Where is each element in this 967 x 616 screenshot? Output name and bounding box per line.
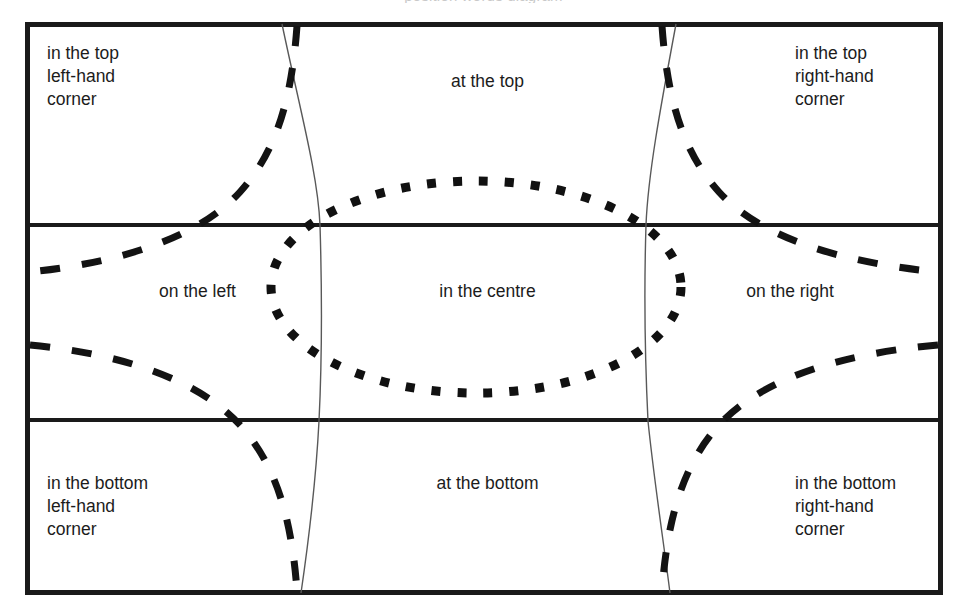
cell-label-middle-left: on the left bbox=[90, 280, 305, 303]
cell-label-top-left: in the top left-hand corner bbox=[47, 42, 119, 111]
divider-top bbox=[25, 223, 943, 227]
clipped-heading-text: position words diagram bbox=[0, 0, 967, 3]
cell-label-bottom-centre: at the bottom bbox=[330, 472, 645, 495]
diagram-canvas: position words diagram in the top left-h… bbox=[0, 0, 967, 616]
cell-label-middle-right: on the right bbox=[675, 280, 905, 303]
cell-label-top-centre: at the top bbox=[330, 70, 645, 93]
cell-label-bottom-right: in the bottom right-hand corner bbox=[795, 472, 896, 541]
cell-label-middle-centre: in the centre bbox=[340, 280, 635, 303]
cell-label-top-right: in the top right-hand corner bbox=[795, 42, 874, 111]
cell-label-bottom-left: in the bottom left-hand corner bbox=[47, 472, 148, 541]
divider-bottom bbox=[25, 418, 943, 422]
